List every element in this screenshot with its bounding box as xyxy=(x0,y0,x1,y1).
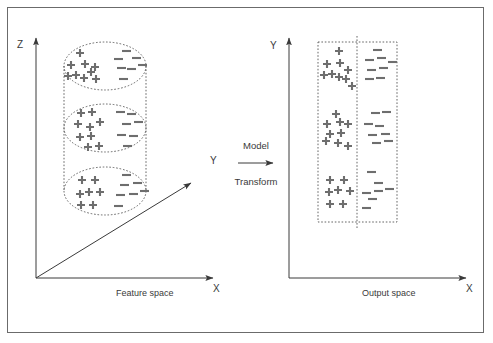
cluster-ellipse-bottom xyxy=(64,167,146,215)
cluster-middle-minus-markers xyxy=(116,112,143,146)
diagram-graphics xyxy=(0,0,493,343)
output-space-axes xyxy=(289,38,466,278)
transform-label: Transform xyxy=(224,177,288,187)
feature-space-markers xyxy=(64,49,149,209)
output-middle-minus-markers xyxy=(364,112,393,143)
feature-space-axes xyxy=(36,38,213,278)
output-top-plus-markers xyxy=(320,47,356,90)
output-space-y-axis-label: Y xyxy=(270,41,277,51)
feature-space-y-axis-label: Y xyxy=(210,156,217,166)
output-space-x-axis-label: X xyxy=(466,284,473,294)
feature-space-caption: Feature space xyxy=(116,289,174,298)
feature-space-y-axis xyxy=(36,183,191,278)
output-middle-plus-markers xyxy=(322,110,352,150)
feature-space-x-axis-label: X xyxy=(213,284,220,294)
cluster-bottom-minus-markers xyxy=(114,175,149,206)
cluster-middle-plus-markers xyxy=(74,108,104,151)
output-bottom-minus-markers xyxy=(362,172,394,208)
output-bottom-plus-markers xyxy=(325,176,354,208)
diagram-canvas: Z X Y Feature space Model Transform Y X … xyxy=(0,0,493,343)
cluster-ellipse-top xyxy=(64,42,146,90)
model-label: Model xyxy=(224,141,288,151)
output-space-markers xyxy=(320,47,397,208)
output-top-minus-markers xyxy=(365,50,397,79)
feature-space-z-axis-label: Z xyxy=(17,40,23,50)
cluster-ellipse-middle xyxy=(64,104,146,152)
cluster-bottom-plus-markers xyxy=(76,176,104,209)
cluster-top-minus-markers xyxy=(114,51,147,79)
output-space-caption: Output space xyxy=(362,289,416,298)
